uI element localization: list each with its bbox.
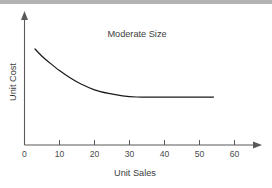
x-axis-tick-labels: 0 10 20 30 40 50 60 [22, 149, 239, 159]
x-axis-ticks [25, 140, 235, 145]
x-tick-label-50: 50 [195, 149, 205, 159]
chart-svg: 0 10 20 30 40 50 60 Moderate Size Unit S… [0, 0, 272, 188]
x-tick-label-0: 0 [22, 149, 27, 159]
x-tick-label-10: 10 [55, 149, 65, 159]
chart-container: 0 10 20 30 40 50 60 Moderate Size Unit S… [0, 0, 272, 188]
x-tick-label-40: 40 [160, 149, 170, 159]
x-axis-title: Unit Sales [114, 168, 156, 178]
x-tick-label-20: 20 [90, 149, 100, 159]
y-axis-arrow-icon [21, 11, 28, 20]
data-series-line [35, 49, 214, 97]
chart-page: 0 10 20 30 40 50 60 Moderate Size Unit S… [0, 0, 272, 188]
x-tick-label-30: 30 [125, 149, 135, 159]
chart-title: Moderate Size [107, 29, 166, 39]
y-axis-title: Unit Cost [8, 63, 18, 101]
x-tick-label-60: 60 [230, 149, 240, 159]
x-axis-arrow-icon [253, 142, 262, 149]
